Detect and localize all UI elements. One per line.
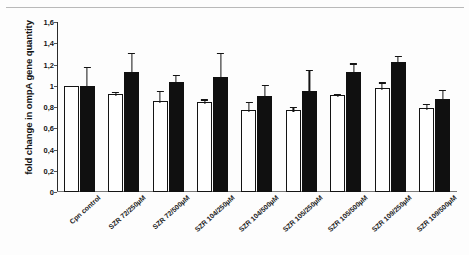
y-axis-tick-mark	[54, 171, 57, 172]
bar-group	[190, 22, 234, 192]
bar-black-bar	[124, 72, 139, 192]
bar-white-bar	[153, 101, 168, 192]
x-axis-tick-label: SZR 104/500µM	[237, 194, 279, 233]
x-axis-tick-label: SZR 72/250µM	[107, 194, 146, 230]
error-bar-cap	[423, 104, 430, 105]
y-axis-tick-mark	[54, 22, 57, 23]
bar-group	[57, 22, 101, 192]
bar-groups	[57, 22, 457, 192]
error-bar-cap	[157, 91, 164, 92]
bar-white-bar	[241, 110, 256, 192]
error-bar	[220, 53, 221, 80]
bar-black-bar	[346, 72, 361, 192]
error-bar-cap	[84, 67, 91, 68]
error-bar	[309, 70, 310, 93]
y-axis-tick-mark	[54, 65, 57, 66]
y-axis-tick-label: 0,4	[44, 145, 54, 154]
plot-area	[57, 22, 457, 192]
x-axis-tick-label: SZR 105/500µM	[326, 194, 368, 233]
error-bar-cap	[350, 63, 357, 64]
y-axis-tick-label: 0,2	[44, 166, 54, 175]
error-bar-cap	[112, 92, 119, 93]
x-axis-tick-label: SZR 109/250µM	[371, 194, 413, 233]
x-axis-tick-label: SZR 109/500µM	[415, 194, 457, 233]
error-bar	[442, 90, 443, 101]
page-rule-divider	[6, 7, 464, 8]
error-bar	[176, 75, 177, 84]
bar-white-bar	[330, 95, 345, 192]
error-bar	[353, 63, 354, 74]
bar-black-bar	[169, 82, 184, 193]
error-bar	[398, 56, 399, 65]
bar-white-bar	[419, 108, 434, 192]
y-axis-tick-mark	[54, 43, 57, 44]
y-axis-tick-label: 0,6	[44, 124, 54, 133]
error-bar-cap	[334, 94, 341, 95]
y-axis-tick-mark	[54, 86, 57, 87]
y-axis-tick-label: 1,2	[44, 60, 54, 69]
chart-figure: fold change in ompA gene quantity 1,61,4…	[0, 0, 469, 255]
bar-group	[413, 22, 457, 192]
bar-white-bar	[108, 94, 123, 192]
bar-black-bar	[435, 99, 450, 193]
error-bar	[264, 85, 265, 99]
error-bar-cap	[379, 82, 386, 83]
bar-black-bar	[391, 62, 406, 192]
error-bar	[248, 102, 249, 113]
y-axis-tick-label: 1,4	[44, 39, 54, 48]
error-bar-cap	[395, 56, 402, 57]
error-bar	[87, 67, 88, 88]
bar-group	[146, 22, 190, 192]
bar-group	[101, 22, 145, 192]
bar-group	[324, 22, 368, 192]
x-axis-tick-label: SZR 105/250µM	[282, 194, 324, 233]
y-axis-tick-labels: 1,61,41,210,80,60,40,20	[28, 22, 54, 192]
error-bar	[204, 99, 205, 103]
error-bar-cap	[201, 99, 208, 100]
x-axis-tick-label: SZR 72/500µM	[151, 194, 190, 230]
error-bar	[337, 94, 338, 97]
error-bar	[131, 53, 132, 74]
bar-white-bar	[197, 102, 212, 192]
bar-group	[368, 22, 412, 192]
error-bar-cap	[128, 53, 135, 54]
bar-white-bar	[375, 88, 390, 192]
bar-white-bar	[286, 110, 301, 192]
bar-black-bar	[302, 91, 317, 192]
y-axis-tick-mark	[54, 128, 57, 129]
bar-group	[235, 22, 279, 192]
bar-group	[279, 22, 323, 192]
x-axis-tick-label: SZR 104/250µM	[193, 194, 235, 233]
x-axis-tick-labels: Cpn controlSZR 72/250µMSZR 72/500µMSZR 1…	[57, 194, 457, 254]
x-axis-tick-label: Cpn control	[68, 194, 101, 225]
error-bar-cap	[306, 70, 313, 71]
error-bar	[426, 104, 427, 110]
y-axis-tick-label: 0,8	[44, 103, 54, 112]
error-bar	[115, 92, 116, 96]
error-bar-cap	[217, 53, 224, 54]
y-axis-tick-mark	[54, 150, 57, 151]
y-axis-tick-label: 1,6	[44, 18, 54, 27]
error-bar-cap	[261, 85, 268, 86]
bar-black-bar	[80, 86, 95, 192]
error-bar	[382, 82, 383, 89]
error-bar	[293, 107, 294, 112]
error-bar-cap	[290, 107, 297, 108]
error-bar-cap	[245, 102, 252, 103]
error-bar-cap	[439, 90, 446, 91]
bar-black-bar	[213, 77, 228, 192]
bar-white-bar	[64, 86, 79, 192]
y-axis-tick-mark	[54, 192, 57, 193]
y-axis-tick-mark	[54, 107, 57, 108]
error-bar-cap	[173, 75, 180, 76]
error-bar	[160, 91, 161, 103]
bar-black-bar	[257, 96, 272, 192]
